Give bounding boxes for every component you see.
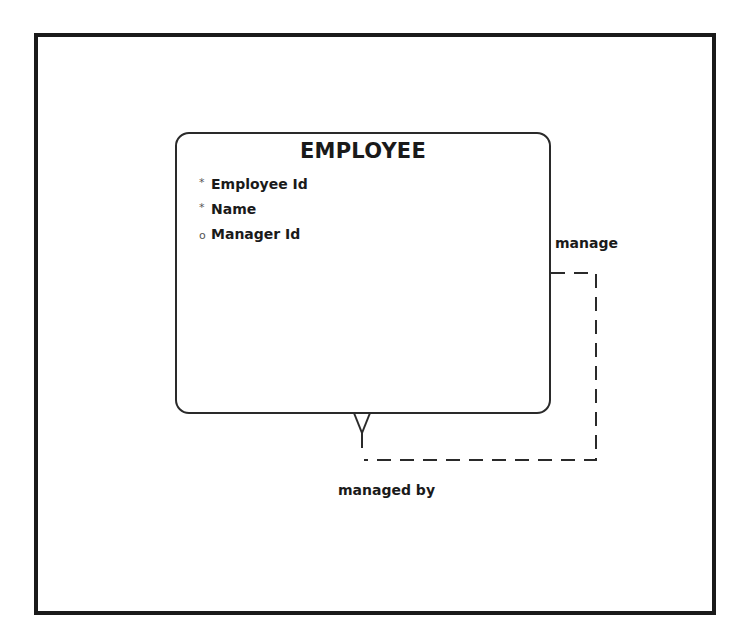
relationship-label-managed-by: managed by: [338, 482, 435, 498]
relationship-lines: [0, 0, 744, 643]
crow-foot-icon: [354, 413, 370, 448]
relationship-line[interactable]: [364, 273, 596, 460]
relationship-label-manage: manage: [555, 235, 618, 251]
